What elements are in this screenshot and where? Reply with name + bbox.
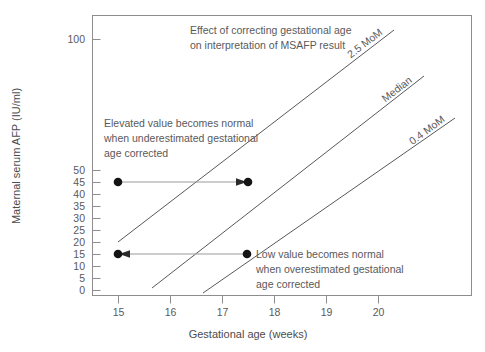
x-tick-label-20: 20 bbox=[373, 306, 385, 318]
annotation-low-line-2: when overestimated gestational bbox=[255, 263, 404, 275]
x-tick-label-16: 16 bbox=[165, 306, 177, 318]
y-tick-label-5: 5 bbox=[79, 272, 85, 284]
y-tick-label-100: 100 bbox=[67, 33, 85, 45]
y-tick-label-15: 15 bbox=[73, 248, 85, 260]
annotation-low-line-3: age corrected bbox=[256, 278, 320, 290]
x-tick-label-17: 17 bbox=[217, 306, 229, 318]
annotation-elevated-line-2: when underestimated gestational bbox=[103, 132, 258, 144]
annotation-elevated-line-1: Elevated value becomes normal bbox=[104, 117, 253, 129]
figure-container: 100 50 45 40 35 30 25 20 15 10 5 0 Mater… bbox=[0, 0, 485, 352]
y-axis-title: Maternal serum AFP (IU/ml) bbox=[10, 88, 22, 224]
y-tick-label-40: 40 bbox=[73, 188, 85, 200]
datapoint-low-origin bbox=[243, 250, 252, 259]
y-tick-label-10: 10 bbox=[73, 260, 85, 272]
x-tick-label-15: 15 bbox=[113, 306, 125, 318]
msafp-chart: 100 50 45 40 35 30 25 20 15 10 5 0 Mater… bbox=[0, 0, 485, 352]
series-label-median: Median bbox=[379, 73, 414, 104]
datapoint-elevated-corrected bbox=[244, 178, 253, 187]
y-tick-label-0: 0 bbox=[79, 284, 85, 296]
y-tick-label-25: 25 bbox=[73, 224, 85, 236]
y-tick-label-35: 35 bbox=[73, 200, 85, 212]
chart-title-line-2: on interpretation of MSAFP result bbox=[190, 39, 345, 51]
series-label-0-4-mom: 0.4 MoM bbox=[407, 113, 447, 147]
x-tick-label-18: 18 bbox=[269, 306, 281, 318]
datapoint-elevated-origin bbox=[114, 178, 123, 187]
annotation-elevated-line-3: age corrected bbox=[104, 147, 168, 159]
x-tick-label-19: 19 bbox=[321, 306, 333, 318]
annotation-low-line-1: Low value becomes normal bbox=[256, 248, 384, 260]
y-tick-label-50: 50 bbox=[73, 164, 85, 176]
chart-title-line-1: Effect of correcting gestational age bbox=[190, 24, 352, 36]
y-tick-label-30: 30 bbox=[73, 212, 85, 224]
y-tick-label-45: 45 bbox=[73, 176, 85, 188]
x-axis-title: Gestational age (weeks) bbox=[189, 328, 308, 340]
y-tick-label-20: 20 bbox=[73, 236, 85, 248]
datapoint-low-corrected bbox=[114, 250, 123, 259]
